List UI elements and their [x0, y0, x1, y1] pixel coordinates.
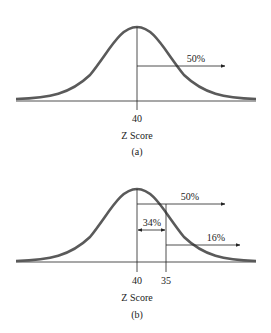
- axis-label-b: Z Score: [121, 292, 153, 303]
- label-34-b: 34%: [143, 217, 161, 228]
- caption-a: (a): [131, 146, 142, 158]
- caption-b: (b): [131, 309, 143, 321]
- normal-curve-b: [16, 189, 256, 261]
- panel-a: 50% 40 Z Score (a): [16, 27, 256, 158]
- tick-35-b: 35: [161, 275, 171, 286]
- normal-distribution-figure: 50% 40 Z Score (a) 50% 34% 16% 40 35 Z S…: [0, 0, 271, 333]
- tick-40-b: 40: [132, 275, 142, 286]
- axis-label-a: Z Score: [121, 130, 153, 141]
- panel-b: 50% 34% 16% 40 35 Z Score (b): [16, 189, 256, 321]
- label-50-a: 50%: [187, 53, 205, 64]
- label-50-b: 50%: [181, 191, 199, 202]
- normal-curve-a: [16, 27, 256, 99]
- label-16-b: 16%: [207, 232, 225, 243]
- tick-40-a: 40: [132, 113, 142, 124]
